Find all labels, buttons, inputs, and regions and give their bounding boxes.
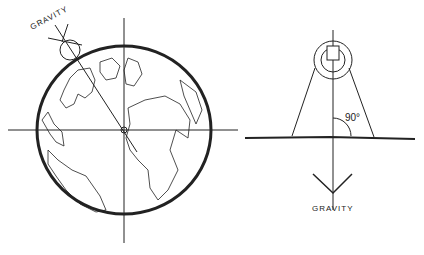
column-figure — [245, 30, 415, 210]
column-gravity-label: GRAVITY — [312, 204, 354, 213]
globe-gravity-label: GRAVITY — [29, 4, 70, 31]
angle-label: 90° — [345, 112, 360, 123]
earth-globe — [8, 18, 238, 243]
diagram-canvas: GRAVITY 90° GRAVITY — [0, 0, 424, 255]
